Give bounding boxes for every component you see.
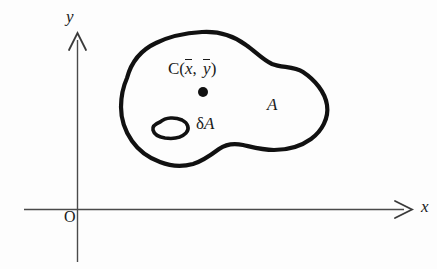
centroid-label-prefix: C( <box>168 59 185 78</box>
centroid-figure: y x O C(x, y) A δA <box>0 0 437 269</box>
x-axis-label: x <box>421 198 429 215</box>
area-element-delta-A-outline <box>153 118 188 138</box>
figure-canvas <box>0 0 437 269</box>
origin-label: O <box>64 209 76 225</box>
centroid-label-ybar: y <box>203 60 211 77</box>
y-axis-label: y <box>66 8 74 25</box>
delta-symbol: δ <box>196 114 204 133</box>
centroid-label: C(x, y) <box>168 60 216 77</box>
area-region-A-outline <box>121 32 327 166</box>
centroid-label-suffix: ) <box>211 59 217 78</box>
area-label: A <box>267 96 277 113</box>
centroid-label-comma: , <box>193 59 204 78</box>
delta-area-label: δA <box>196 115 214 132</box>
delta-area-letter: A <box>204 114 214 133</box>
centroid-label-xbar: x <box>185 60 193 77</box>
centroid-point-marker <box>198 87 208 97</box>
